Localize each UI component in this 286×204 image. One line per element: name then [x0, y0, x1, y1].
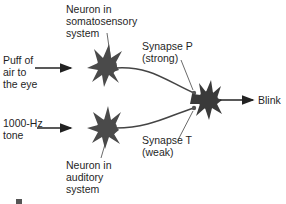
label-somatosensory: Neuron in somatosensory system: [66, 3, 137, 39]
label-synapse-p: Synapse P (strong): [142, 40, 193, 64]
axon-auditory: [116, 108, 194, 128]
neuron-auditory-icon: [87, 106, 121, 149]
label-auditory: Neuron in auditory system: [66, 159, 112, 195]
axon-somatosensory: [116, 68, 194, 93]
neuron-somatosensory-icon: [87, 44, 122, 87]
circuit-diagram: [0, 0, 286, 204]
synapse-t-dot: [192, 106, 196, 110]
corner-mark: [16, 199, 22, 204]
label-tone-input: 1000-Hz tone: [3, 117, 43, 141]
label-blink-output: Blink: [258, 94, 281, 106]
neuron-motor-icon: [190, 80, 222, 120]
leader-synapse-p: [181, 60, 193, 90]
label-synapse-t: Synapse T (weak): [142, 134, 192, 158]
label-puff-input: Puff of air to the eye: [3, 54, 37, 90]
